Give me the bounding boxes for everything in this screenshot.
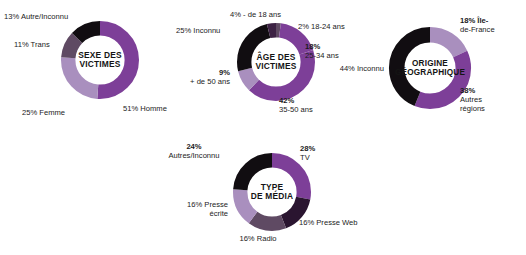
donut-segments-age (244, 30, 308, 94)
infographic-donut-charts: SEXE DES VICTIMES 13% Autre/Inconnu 11% … (0, 0, 526, 255)
label-age-inconnu: 25% Inconnu (176, 26, 220, 35)
donut-segments-origine (397, 35, 464, 102)
label-age-plus-de-50-ans: 9%+ de 50 ans (172, 68, 230, 86)
label-origine-autres-regions: 38%Autresrégions (460, 86, 518, 113)
label-media-radio: 16% Radio (218, 234, 298, 243)
chart-sexe-des-victimes: SEXE DES VICTIMES 13% Autre/Inconnu 11% … (0, 0, 180, 130)
chart-origine-geographique: ORIGINE GÉOGRAPHIQUE 18% Île-de-France 3… (356, 0, 526, 130)
label-sexe-autre-inconnu: 13% Autre/Inconnu (4, 12, 68, 21)
donut-segments-media (240, 160, 304, 224)
donut-sexe: SEXE DES VICTIMES (58, 18, 142, 102)
donut-svg-sexe (58, 18, 142, 102)
chart-type-de-media: TYPE DE MÉDIA 28%TV 16% Presse Web 16% R… (160, 128, 380, 255)
label-sexe-homme: 51% Homme (123, 104, 167, 113)
label-media-presse-web: 16% Presse Web (299, 218, 358, 227)
label-age-35-50-ans: 42%35-50 ans (279, 96, 339, 114)
label-age-25-34-ans: 18%25-34 ans (305, 42, 357, 60)
label-origine-inconnu: 44% Inconnu (328, 64, 384, 73)
label-age-18-24-ans: 2% 18-24 ans (298, 22, 345, 31)
label-media-autres-inconnu: 24%Autres/Inconnu (152, 142, 236, 160)
donut-svg-age (234, 20, 318, 104)
label-sexe-trans: 11% Trans (14, 40, 50, 49)
donut-segments-sexe (68, 28, 132, 92)
label-media-presse-ecrite: 16% Presseécrite (156, 200, 228, 218)
label-media-tv: 28%TV (300, 144, 356, 162)
label-sexe-femme: 25% Femme (22, 108, 65, 117)
donut-age: ÂGE DES VICTIMES (234, 20, 318, 104)
label-origine-ile-de-france: 18% Île-de-France (460, 16, 524, 34)
label-age-moins-de-18-ans: 4% - de 18 ans (230, 10, 281, 19)
